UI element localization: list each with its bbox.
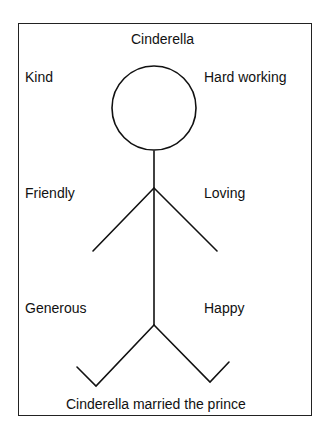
trait-kind: Kind — [25, 69, 53, 85]
trait-hard-working: Hard working — [204, 69, 286, 85]
left-leg — [77, 325, 154, 386]
trait-friendly: Friendly — [25, 185, 75, 201]
right-leg — [154, 325, 229, 382]
trait-happy: Happy — [204, 300, 244, 316]
trait-generous: Generous — [25, 300, 86, 316]
left-arm — [93, 188, 154, 251]
caption: Cinderella married the prince — [66, 396, 246, 412]
trait-loving: Loving — [204, 185, 245, 201]
diagram-title: Cinderella — [131, 31, 194, 47]
head-circle — [112, 66, 196, 150]
stick-figure-icon — [0, 0, 327, 434]
